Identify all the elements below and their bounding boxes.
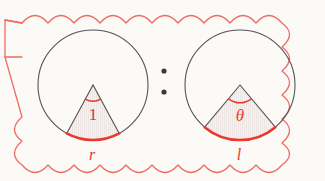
- figure-root: 1 r θ l: [0, 0, 325, 181]
- angle-label-left: 1: [89, 105, 98, 124]
- angle-label-right: θ: [236, 106, 244, 125]
- ratio-dot-bottom: [161, 89, 166, 94]
- geometry-figure-svg: 1 r θ l: [0, 0, 325, 181]
- arc-label-right: l: [237, 146, 242, 163]
- arc-label-left: r: [89, 146, 96, 163]
- ratio-dot-top: [161, 68, 166, 73]
